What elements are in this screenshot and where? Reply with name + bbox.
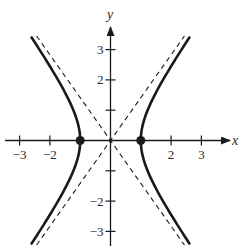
vertex-point [136,136,145,145]
x-tick-label: −2 [43,147,57,162]
y-tick-label: −3 [90,224,104,239]
y-tick-label: −2 [90,194,104,209]
axes: −3−22332−2−3 [5,27,230,246]
y-tick-label: 3 [97,42,104,57]
x-tick-label: 3 [198,147,205,162]
x-tick-label: 2 [168,147,175,162]
x-tick-label: −3 [13,147,27,162]
y-tick-label: 2 [97,72,104,87]
hyperbola-plot: −3−22332−2−3 x y [0,0,241,250]
vertex-point [76,136,85,145]
y-axis-label: y [105,7,114,22]
x-axis-label: x [231,133,239,148]
